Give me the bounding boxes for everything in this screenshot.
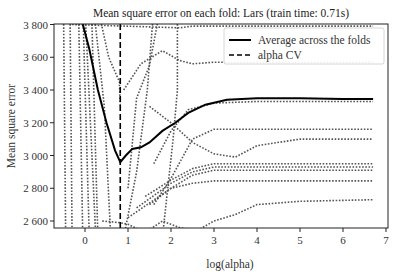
x-tick-label: 5 xyxy=(297,234,303,246)
x-axis-label: log(alpha) xyxy=(206,258,253,271)
x-tick-label: 1 xyxy=(125,234,131,246)
fold-line xyxy=(72,25,373,28)
y-tick-label: 3 000 xyxy=(23,150,48,162)
legend: Average across the folds alpha CV xyxy=(224,28,384,64)
fold-line xyxy=(145,164,373,197)
y-tick-label: 3 400 xyxy=(23,84,48,96)
fold-line xyxy=(98,8,120,106)
fold-line xyxy=(137,167,374,208)
x-tick-label: 3 xyxy=(211,234,217,246)
fold-line xyxy=(92,8,98,237)
y-tick-label: 2 800 xyxy=(23,182,48,194)
fold-line xyxy=(154,102,373,164)
legend-alpha-label: alpha CV xyxy=(258,49,302,62)
x-tick-label: 6 xyxy=(340,234,346,246)
y-tick-label: 3 800 xyxy=(23,19,48,31)
y-tick-label: 3 200 xyxy=(23,117,48,129)
x-tick-label: 0 xyxy=(82,234,88,246)
fold-line xyxy=(128,8,160,188)
y-axis-label: Mean square error xyxy=(5,84,18,168)
fold-line xyxy=(70,8,72,237)
fold-line xyxy=(79,8,83,237)
fold-line xyxy=(94,8,111,237)
x-tick-label: 7 xyxy=(383,234,389,246)
y-tick-label: 2 600 xyxy=(23,215,48,227)
fold-line xyxy=(150,106,374,157)
y-axis: 2 6002 8003 0003 2003 4003 6003 800 xyxy=(23,19,54,228)
y-tick-label: 3 600 xyxy=(23,51,48,63)
cv-mse-chart: Mean square error on each fold: Lars (tr… xyxy=(0,0,400,280)
x-axis: 01234567 xyxy=(82,228,389,246)
legend-average-label: Average across the folds xyxy=(258,34,371,47)
fold-line xyxy=(64,8,66,237)
x-tick-label: 4 xyxy=(254,234,260,246)
chart-title: Mean square error on each fold: Lars (tr… xyxy=(93,7,349,20)
x-tick-label: 2 xyxy=(168,234,174,246)
